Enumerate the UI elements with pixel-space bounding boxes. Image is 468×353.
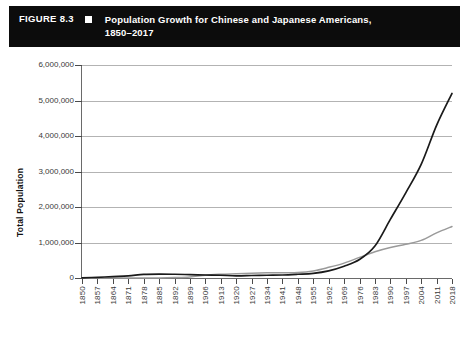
x-axis-tick (406, 279, 407, 284)
x-axis-tick (236, 279, 237, 284)
x-axis-tick (421, 279, 422, 284)
y-axis-label: 6,000,000 (12, 60, 74, 69)
y-axis-tick (75, 65, 82, 66)
x-axis-tick (329, 279, 330, 284)
y-axis-tick (75, 101, 82, 102)
x-axis-tick (252, 279, 253, 284)
x-axis-tick (313, 279, 314, 284)
x-axis-tick (282, 279, 283, 284)
y-axis-tick (75, 243, 82, 244)
x-axis-tick (360, 279, 361, 284)
y-axis-label: 0 (12, 273, 74, 282)
x-axis-label: 1955 (309, 286, 318, 305)
x-axis-label: 1997 (402, 286, 411, 305)
x-axis-tick (390, 279, 391, 284)
x-axis-tick (452, 279, 453, 284)
x-axis-tick (344, 279, 345, 284)
square-bullet-icon (85, 16, 92, 23)
x-axis-label: 1948 (294, 286, 303, 305)
y-axis-label: 2,000,000 (12, 202, 74, 211)
y-axis-tick (75, 136, 82, 137)
y-axis-tick (75, 207, 82, 208)
x-axis-label: 1920 (232, 286, 241, 305)
x-axis-label: 1864 (109, 286, 118, 305)
x-axis-label: 1962 (325, 286, 334, 305)
x-axis-label: 1906 (201, 286, 210, 305)
x-axis-tick (221, 279, 222, 284)
figure-number: FIGURE 8.3 (19, 13, 74, 25)
x-axis-label: 1941 (278, 286, 287, 305)
x-axis-tick (205, 279, 206, 284)
x-axis-tick (159, 279, 160, 284)
x-axis-label: 1871 (124, 286, 133, 305)
figure-header: FIGURE 8.3 Population Growth for Chinese… (9, 6, 460, 47)
x-axis-tick (437, 279, 438, 284)
x-axis-label: 1927 (248, 286, 257, 305)
y-axis-tick (75, 172, 82, 173)
x-axis-label: 2011 (433, 286, 442, 304)
x-axis-tick (375, 279, 376, 284)
x-axis-tick (298, 279, 299, 284)
chart-area: Total Population 01,000,0002,000,0003,00… (0, 47, 468, 353)
figure-title: Population Growth for Chinese and Japane… (105, 13, 372, 39)
x-axis-tick (97, 279, 98, 284)
x-axis-label: 2004 (417, 286, 426, 305)
x-axis-label: 1899 (186, 286, 195, 305)
x-axis-label: 1878 (140, 286, 149, 305)
x-axis-label: 1892 (171, 286, 180, 305)
y-axis-tick (75, 278, 82, 279)
x-axis-label: 1969 (340, 286, 349, 305)
x-axis-tick (144, 279, 145, 284)
series-line-chinese (82, 93, 452, 277)
x-axis-tick (175, 279, 176, 284)
figure-title-line-1: Population Growth for Chinese and Japane… (105, 13, 372, 26)
x-axis-tick (190, 279, 191, 284)
y-axis-label: 4,000,000 (12, 131, 74, 140)
x-axis-label: 1934 (263, 286, 272, 305)
x-axis-tick (113, 279, 114, 284)
x-axis-label: 2018 (448, 286, 457, 305)
x-axis-label: 1983 (371, 286, 380, 305)
x-axis-label: 1976 (356, 286, 365, 305)
x-axis-tick (82, 279, 83, 284)
x-axis-label: 1913 (217, 286, 226, 305)
y-axis-label: 1,000,000 (12, 238, 74, 247)
figure-page: FIGURE 8.3 Population Growth for Chinese… (0, 0, 468, 353)
y-axis-label: 5,000,000 (12, 96, 74, 105)
x-axis-label: 1857 (93, 286, 102, 305)
x-axis-tick (267, 279, 268, 284)
series-lines (82, 65, 452, 278)
y-axis-label: 3,000,000 (12, 167, 74, 176)
series-line-japanese (82, 227, 452, 278)
x-axis-label: 1990 (386, 286, 395, 305)
x-axis-label: 1885 (155, 286, 164, 305)
x-axis-label: 1850 (78, 286, 87, 305)
figure-title-line-2: 1850–2017 (105, 26, 372, 39)
x-axis-tick (128, 279, 129, 284)
